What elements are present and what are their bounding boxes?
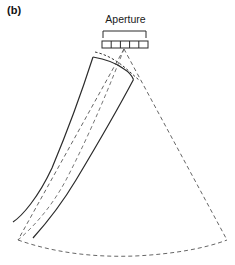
ideal-sector [18, 49, 227, 256]
ideal-sector-left-edge [18, 49, 124, 240]
wavefront-perturbation-curve [95, 52, 139, 80]
ideal-sector-right-edge [124, 49, 227, 240]
beam-diagram [0, 0, 235, 265]
aperture-bracket [103, 31, 146, 38]
distorted-beam-left-edge [13, 57, 93, 222]
array-outline [102, 41, 148, 48]
distorted-beam-right-edge [33, 80, 134, 239]
figure-root: (b) Aperture [0, 0, 235, 265]
transducer-array [102, 41, 148, 48]
distorted-beam [13, 57, 134, 238]
ideal-sector-bottom-arc [18, 240, 227, 256]
